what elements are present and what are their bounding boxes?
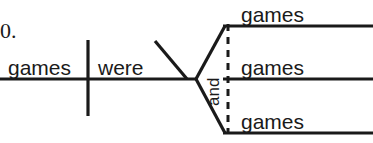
compound-complement-middle-label: games xyxy=(241,57,304,78)
item-number: 0. xyxy=(0,20,17,42)
modifier-slant-line xyxy=(155,41,187,79)
sentence-diagram: 0. games were and games games games xyxy=(0,0,373,143)
verb-label: were xyxy=(98,57,144,78)
compound-complement-top-label: games xyxy=(241,4,304,25)
subject-label: games xyxy=(8,57,71,78)
fork-upper-diagonal-line xyxy=(196,26,225,79)
compound-complement-bottom-label: games xyxy=(241,111,304,132)
conjunction-label: and xyxy=(205,78,222,106)
